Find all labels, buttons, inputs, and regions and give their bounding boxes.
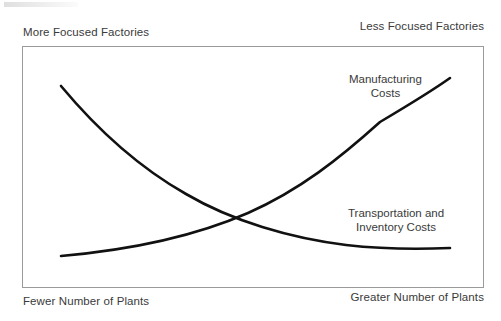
curve-label-transportation-line2: Inventory Costs <box>348 220 444 234</box>
curves-layer <box>0 0 501 321</box>
curve-label-transportation-line1: Transportation and <box>348 206 444 220</box>
curve-label-transportation-inventory-costs: Transportation and Inventory Costs <box>348 206 444 234</box>
curve-label-manufacturing-line1: Manufacturing <box>349 72 422 86</box>
annotation-bottom-left: Fewer Number of Plants <box>23 295 149 307</box>
figure-canvas: More Focused Factories Less Focused Fact… <box>0 0 501 321</box>
curve-label-manufacturing-costs: Manufacturing Costs <box>349 72 422 100</box>
annotation-bottom-right: Greater Number of Plants <box>351 291 484 303</box>
curve-label-manufacturing-line2: Costs <box>349 86 422 100</box>
annotation-top-right: Less Focused Factories <box>360 20 484 32</box>
annotation-top-left: More Focused Factories <box>23 26 149 38</box>
